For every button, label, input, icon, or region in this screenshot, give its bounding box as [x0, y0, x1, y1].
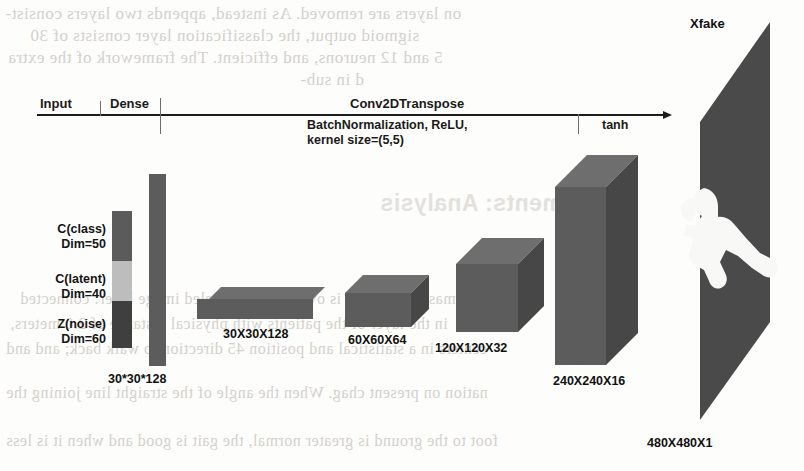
dim-label-output-image: 480X480X1 [647, 436, 712, 450]
box-feature-map-1 [197, 287, 325, 325]
box-front-face [555, 187, 606, 365]
timeline-arrow-icon [663, 111, 672, 119]
box-front-face [345, 293, 411, 327]
dense-layer-bar [149, 174, 166, 366]
label-z-noise: Z(noise) Dim=60 [18, 317, 106, 347]
label-c-latent-title: C(latent) [18, 272, 106, 287]
input-vector-bar [112, 211, 132, 348]
label-z-noise-dim: Dim=60 [18, 332, 106, 347]
figure-canvas: on layers are removed. As instead, appen… [0, 0, 804, 471]
axis-tick-conv-tanh [578, 114, 579, 134]
bleed-text-line: d in sub- [300, 70, 364, 90]
box-feature-map-3 [456, 238, 551, 338]
label-c-latent: C(latent) Dim=40 [18, 272, 106, 302]
box-feature-map-4 [555, 155, 650, 370]
output-label-xfake: Xfake [690, 16, 725, 31]
stage-label-dense: Dense [110, 96, 149, 111]
box-front-face [456, 264, 518, 332]
dim-label-feature-map-4: 240X240X16 [553, 374, 625, 388]
box-top-face [209, 287, 325, 299]
label-z-noise-title: Z(noise) [18, 317, 106, 332]
segment-c-class [112, 211, 132, 261]
generated-person-silhouette [660, 180, 790, 315]
bleed-text-line: 5 and 12 neurons, and efficient. The fra… [8, 48, 443, 68]
label-c-class-title: C(class) [18, 222, 106, 237]
box-feature-map-2 [345, 275, 435, 330]
stage-label-conv2dtranspose: Conv2DTranspose [350, 96, 464, 111]
axis-tick-input-dense [100, 101, 101, 116]
label-c-class-dim: Dim=50 [18, 237, 106, 252]
dim-label-feature-map-1: 30X30X128 [223, 327, 288, 341]
timeline-axis [37, 114, 665, 116]
dim-label-feature-map-3: 120X120X32 [435, 341, 507, 355]
bleed-text-line: foot to the ground is greater normal, th… [6, 432, 498, 450]
conv-params-line2: kernel size=(5,5) [307, 133, 404, 148]
label-c-class: C(class) Dim=50 [18, 222, 106, 252]
bleed-text-line: nation on present chag. When the angle o… [6, 384, 488, 402]
dim-label-feature-map-2: 60X60X64 [348, 333, 406, 347]
box-side-face [606, 155, 638, 365]
label-c-latent-dim: Dim=40 [18, 287, 106, 302]
segment-z-noise [112, 301, 132, 348]
stage-label-input: Input [40, 96, 72, 111]
conv-params-line1: BatchNormalization, ReLU, [307, 118, 467, 133]
bleed-text-line: on layers are removed. As instead, appen… [5, 4, 461, 24]
activation-label-tanh: tanh [602, 118, 628, 133]
axis-tick-dense-conv [160, 98, 161, 134]
segment-c-latent [112, 261, 132, 301]
box-front-face [197, 299, 313, 319]
bleed-text-line: sigmoid output, the classification layer… [30, 26, 419, 46]
dim-label-dense-bar: 30*30*128 [108, 372, 166, 386]
